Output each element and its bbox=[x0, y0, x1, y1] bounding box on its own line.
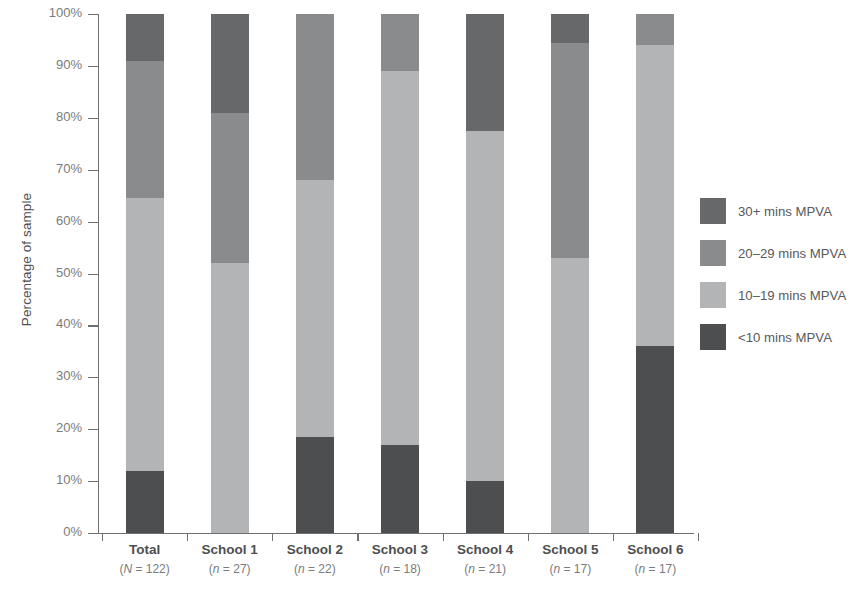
x-axis-tick bbox=[272, 533, 273, 541]
y-axis-tick: 40% bbox=[88, 325, 98, 326]
stacked-bar-chart: Percentage of sample 0%10%20%30%40%50%60… bbox=[0, 0, 864, 593]
legend-item: 20–29 mins MPVA bbox=[700, 232, 864, 274]
bar-school-5 bbox=[551, 14, 589, 533]
y-axis-tick-label: 20% bbox=[22, 420, 82, 435]
y-axis-tick: 0% bbox=[88, 533, 98, 534]
legend-item-label: 20–29 mins MPVA bbox=[738, 246, 846, 261]
x-axis-label-school-6: School 6(n = 17) bbox=[595, 541, 715, 577]
legend-item-label: 10–19 mins MPVA bbox=[738, 288, 846, 303]
bar-segment bbox=[211, 14, 249, 113]
bar-segment bbox=[466, 481, 504, 533]
y-axis-tick-label: 100% bbox=[22, 5, 82, 20]
y-axis-tick: 20% bbox=[88, 429, 98, 430]
x-axis-tick bbox=[357, 533, 358, 541]
y-axis-tick: 10% bbox=[88, 481, 98, 482]
legend-item: <10 mins MPVA bbox=[700, 316, 864, 358]
bar-segment bbox=[381, 445, 419, 533]
y-axis-tick-label: 90% bbox=[22, 57, 82, 72]
bar-segment bbox=[211, 263, 249, 533]
y-axis-tick: 70% bbox=[88, 170, 98, 171]
bar-segment bbox=[636, 45, 674, 346]
plot-area: 0%10%20%30%40%50%60%70%80%90%100% bbox=[98, 14, 694, 533]
bar-segment bbox=[551, 258, 589, 533]
x-axis-line bbox=[88, 533, 694, 534]
bar-segment bbox=[126, 61, 164, 199]
x-axis-tick bbox=[528, 533, 529, 541]
bar-segment bbox=[296, 437, 334, 533]
x-axis-tick bbox=[443, 533, 444, 541]
bar-segment bbox=[551, 14, 589, 43]
y-axis-tick-label: 50% bbox=[22, 265, 82, 280]
x-axis-tick bbox=[187, 533, 188, 541]
bar-segment bbox=[381, 71, 419, 445]
bar-segment bbox=[126, 471, 164, 533]
y-axis-tick-label: 40% bbox=[22, 316, 82, 331]
bar-segment bbox=[466, 131, 504, 481]
bar-school-1 bbox=[211, 14, 249, 533]
bar-segment bbox=[296, 180, 334, 437]
x-axis-label-sample-size: (n = 17) bbox=[595, 561, 715, 577]
y-axis-tick-label: 60% bbox=[22, 213, 82, 228]
bar-school-4 bbox=[466, 14, 504, 533]
bar-school-2 bbox=[296, 14, 334, 533]
bar-total bbox=[126, 14, 164, 533]
y-axis-tick: 100% bbox=[88, 14, 98, 15]
y-axis-tick-label: 30% bbox=[22, 368, 82, 383]
legend-item: 10–19 mins MPVA bbox=[700, 274, 864, 316]
bar-school-6 bbox=[636, 14, 674, 533]
legend-swatch-icon bbox=[700, 240, 726, 266]
y-axis-tick: 60% bbox=[88, 222, 98, 223]
bar-segment bbox=[126, 198, 164, 470]
y-axis-tick-label: 0% bbox=[22, 524, 82, 539]
y-axis-tick-label: 70% bbox=[22, 161, 82, 176]
legend-swatch-icon bbox=[700, 282, 726, 308]
y-axis-tick-label: 10% bbox=[22, 472, 82, 487]
bar-segment bbox=[636, 346, 674, 533]
legend-item: 30+ mins MPVA bbox=[700, 190, 864, 232]
bar-segment bbox=[551, 43, 589, 258]
legend-swatch-icon bbox=[700, 198, 726, 224]
x-axis-tick bbox=[613, 533, 614, 541]
y-axis-line bbox=[98, 14, 99, 533]
bar-segment bbox=[466, 14, 504, 131]
y-axis-tick-label: 80% bbox=[22, 109, 82, 124]
bar-school-3 bbox=[381, 14, 419, 533]
bar-segment bbox=[296, 14, 334, 180]
legend-item-label: 30+ mins MPVA bbox=[738, 204, 832, 219]
x-axis-label-name: School 6 bbox=[595, 541, 715, 559]
chart-legend: 30+ mins MPVA20–29 mins MPVA10–19 mins M… bbox=[700, 190, 864, 358]
y-axis-tick: 30% bbox=[88, 377, 98, 378]
bar-segment bbox=[381, 14, 419, 71]
y-axis-tick: 50% bbox=[88, 274, 98, 275]
y-axis-tick: 90% bbox=[88, 66, 98, 67]
legend-item-label: <10 mins MPVA bbox=[738, 330, 832, 345]
y-axis-tick: 80% bbox=[88, 118, 98, 119]
bar-segment bbox=[126, 14, 164, 61]
legend-swatch-icon bbox=[700, 324, 726, 350]
bar-segment bbox=[211, 113, 249, 264]
x-axis-tick bbox=[698, 533, 699, 541]
bar-segment bbox=[636, 14, 674, 45]
x-axis-tick bbox=[102, 533, 103, 541]
